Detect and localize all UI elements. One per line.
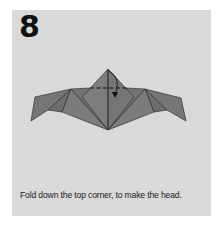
step-caption: Fold down the top corner, to make the he… <box>20 190 182 200</box>
